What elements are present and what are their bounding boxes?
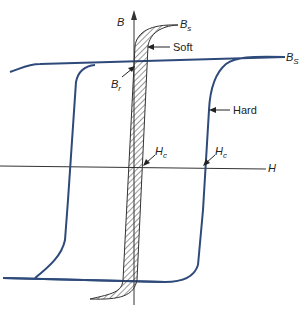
hc-hard-label: Hc <box>215 145 227 160</box>
hard-bs-label: BS <box>286 51 299 66</box>
soft-loop <box>90 25 178 299</box>
soft-bs-label: Bs <box>180 18 191 33</box>
b-axis-arrow-icon <box>131 10 137 20</box>
hard-loop-bottom <box>3 278 165 282</box>
h-axis-label: H <box>268 162 276 174</box>
hc-soft-label: Hc <box>155 145 167 160</box>
hard-label: Hard <box>233 104 257 116</box>
b-axis-label: B <box>117 16 124 28</box>
br-label: Br <box>111 78 121 93</box>
hysteresis-diagram: B H Bs BS Br Hc Hc Soft Hard <box>0 0 305 311</box>
soft-label: Soft <box>173 41 193 53</box>
